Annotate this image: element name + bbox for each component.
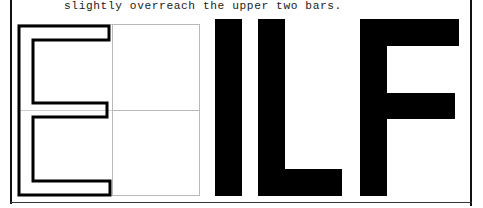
glyph-f-top-arm: [360, 19, 459, 46]
figure-outlined-e: [17, 24, 201, 197]
glyph-f-middle-arm: [360, 93, 455, 119]
glyph-l-foot: [258, 169, 342, 196]
guide-box-midline: [112, 110, 200, 111]
left-page-rule: [10, 0, 12, 204]
right-page-rule: [470, 0, 472, 206]
glyph-i-stem: [215, 19, 242, 196]
caption-text: slightly overreach the upper two bars.: [64, 0, 424, 14]
bottom-page-rule: [10, 202, 472, 203]
glyph-e-outline-svg: [17, 24, 113, 197]
glyph-e-outline: [17, 24, 113, 197]
figure-solid-ilf: [212, 18, 462, 197]
document-page: slightly overreach the upper two bars.: [0, 0, 483, 208]
